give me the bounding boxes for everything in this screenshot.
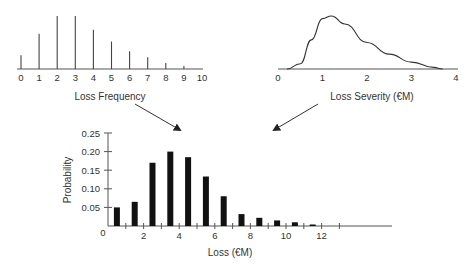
aggregate-y-tick-label: 0.10 <box>82 183 101 194</box>
severity-tick-label: 2 <box>364 72 369 83</box>
aggregate-bar <box>221 196 227 226</box>
aggregate-x-tick-label: 6 <box>212 230 217 241</box>
aggregate-bar <box>203 177 209 226</box>
aggregate-x-label: Loss (€M) <box>208 247 252 258</box>
frequency-tick-label: 10 <box>197 72 208 83</box>
aggregate-bar <box>167 152 173 226</box>
aggregate-bar <box>239 214 245 226</box>
frequency-x-label: Loss Frequency <box>74 91 145 102</box>
aggregate-loss-chart: 0.050.100.150.200.25 24681012 0 Probabil… <box>62 128 392 259</box>
frequency-tick-label: 2 <box>55 72 60 83</box>
aggregate-x-tick-label: 10 <box>281 230 292 241</box>
compound-distribution-diagram: 012345678910 Loss Frequency 01234 Loss S… <box>0 0 473 271</box>
frequency-tick-label: 0 <box>18 72 23 83</box>
severity-tick-label: 4 <box>453 72 458 83</box>
severity-tick-label: 1 <box>320 72 325 83</box>
loss-severity-chart: 01234 Loss Severity (€M) <box>275 16 458 102</box>
aggregate-bar <box>256 218 262 226</box>
frequency-tick-label: 6 <box>127 72 132 83</box>
loss-frequency-chart: 012345678910 Loss Frequency <box>17 16 207 102</box>
severity-tick-label: 3 <box>409 72 414 83</box>
aggregate-bar <box>292 222 298 226</box>
frequency-to-aggregate-arrow <box>135 104 180 130</box>
frequency-tick-label: 3 <box>73 72 78 83</box>
aggregate-bar <box>310 225 316 227</box>
aggregate-y-tick-label: 0.25 <box>82 128 101 139</box>
frequency-tick-label: 8 <box>163 72 168 83</box>
severity-to-aggregate-arrow <box>274 104 318 130</box>
aggregate-y-tick-label: 0.05 <box>82 202 101 213</box>
aggregate-origin-label: 0 <box>100 227 105 238</box>
severity-tick-label: 0 <box>275 72 280 83</box>
aggregate-y-label: Probability <box>62 157 73 204</box>
aggregate-x-tick-label: 2 <box>141 230 146 241</box>
aggregate-x-tick-label: 8 <box>248 230 253 241</box>
aggregate-x-tick-label: 12 <box>316 230 327 241</box>
aggregate-bar <box>132 202 138 226</box>
frequency-tick-label: 9 <box>181 72 186 83</box>
aggregate-x-tick-label: 4 <box>177 230 182 241</box>
frequency-tick-label: 7 <box>145 72 150 83</box>
frequency-tick-label: 4 <box>91 72 96 83</box>
aggregate-bar <box>274 220 280 226</box>
severity-density-curve <box>287 16 443 69</box>
aggregate-y-tick-label: 0.15 <box>82 165 101 176</box>
aggregate-bar <box>185 157 191 226</box>
frequency-tick-label: 5 <box>109 72 114 83</box>
aggregate-y-tick-label: 0.20 <box>82 146 101 157</box>
aggregate-bar <box>114 207 120 226</box>
aggregate-bar <box>150 163 156 226</box>
frequency-tick-label: 1 <box>36 72 41 83</box>
severity-x-label: Loss Severity (€M) <box>330 91 413 102</box>
